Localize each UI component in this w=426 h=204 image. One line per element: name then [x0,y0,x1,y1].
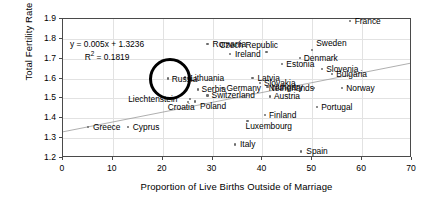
data-point-label: Cyprus [133,123,160,131]
gridline-horizontal [63,118,410,119]
scatter-chart-figure: Total Fertility Rate Proportion of Live … [0,0,426,204]
data-point-label: Switzerland [212,91,255,99]
x-tick-mark [311,157,312,160]
x-tick-mark [62,157,63,160]
data-point-label: Finland [269,111,296,119]
data-point-label: Croatia [168,103,195,111]
data-point-label: France [355,17,381,25]
data-point[interactable] [300,150,302,152]
x-tick-label: 10 [97,163,127,173]
y-tick-label: 1.6 [28,73,56,83]
data-point[interactable] [189,98,191,100]
data-point-label: Portugal [321,103,352,111]
data-point[interactable] [251,77,253,79]
data-point-label: Ireland [235,50,261,58]
data-point[interactable] [206,43,208,45]
y-tick-label: 1.3 [28,132,56,142]
russia-highlight-circle [149,58,191,100]
data-point-label: Bulgaria [336,70,367,78]
data-point-label: Estonia [286,60,314,68]
data-point-label: Luxembourg [245,122,292,130]
x-tick-mark [112,157,113,160]
x-tick-label: 0 [47,163,77,173]
data-point-label: Czech Republic [219,41,278,49]
data-point[interactable] [269,95,271,97]
r2-value: = 0.1819 [94,52,129,62]
y-tick-label: 1.5 [28,92,56,102]
data-point-label: Sweden [316,39,346,47]
data-point-label: Italy [240,140,255,148]
data-point[interactable] [316,106,318,108]
x-tick-label: 70 [396,163,426,173]
data-point-label: Poland [200,102,226,110]
data-point[interactable] [229,53,231,55]
x-tick-label: 20 [147,163,177,173]
x-tick-label: 40 [246,163,276,173]
data-point[interactable] [281,63,283,65]
x-tick-mark [162,157,163,160]
x-tick-label: 30 [197,163,227,173]
trendline-r2-line: R2 = 0.1819 [70,50,144,63]
x-tick-mark [411,157,412,160]
x-tick-mark [361,157,362,160]
data-point[interactable] [234,143,236,145]
x-axis-title: Proportion of Live Births Outside of Mar… [62,181,411,192]
trendline-equation-line: y = 0.005x + 1.3236 [70,39,144,50]
data-point[interactable] [127,126,129,128]
x-tick-mark [212,157,213,160]
data-point[interactable] [87,126,89,128]
y-tick-label: 1.9 [28,13,56,23]
y-tick-label: 1.7 [28,53,56,63]
gridline-horizontal [63,79,410,80]
data-point-label: Norway [346,84,374,92]
data-point[interactable] [197,88,199,90]
x-tick-label: 60 [346,163,376,173]
data-point[interactable] [341,87,343,89]
data-point-label: Austria [274,92,300,100]
data-point[interactable] [206,94,208,96]
data-point-label: Spain [306,147,327,155]
data-point[interactable] [264,114,266,116]
y-tick-label: 1.2 [28,152,56,162]
x-tick-mark [261,157,262,160]
data-point[interactable] [321,68,323,70]
data-point-label: Greece [93,123,120,131]
x-tick-label: 50 [296,163,326,173]
gridline-horizontal [63,138,410,139]
data-point[interactable] [265,51,267,53]
y-tick-label: 1.8 [28,33,56,43]
y-tick-label: 1.4 [28,112,56,122]
trendline-equation: y = 0.005x + 1.3236 R2 = 0.1819 [70,39,144,63]
data-point[interactable] [349,20,351,22]
